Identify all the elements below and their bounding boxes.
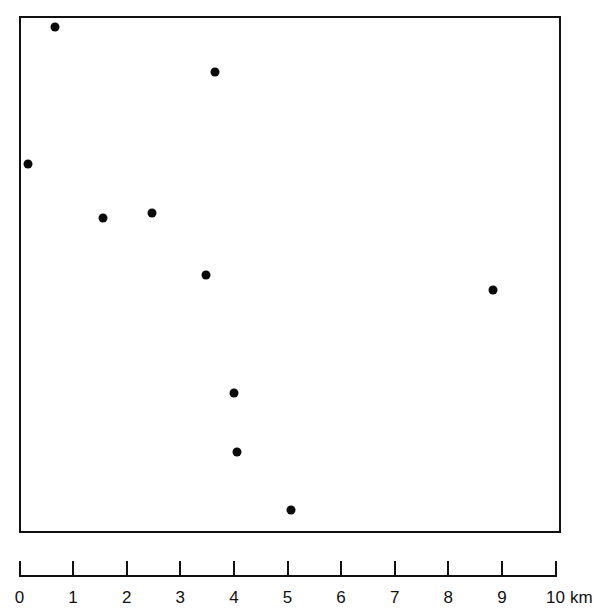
scale-tick	[555, 561, 557, 576]
point-marker	[230, 389, 239, 398]
scale-tick-label: 4	[229, 588, 238, 608]
point-marker	[287, 506, 296, 515]
scale-bar-line	[19, 575, 557, 577]
scale-tick-label: 10	[546, 588, 565, 608]
point-marker	[211, 68, 220, 77]
scale-tick	[447, 561, 449, 576]
scale-tick	[340, 561, 342, 576]
scale-tick	[126, 561, 128, 576]
scale-tick-label: 5	[283, 588, 292, 608]
scale-tick-label: 0	[15, 588, 24, 608]
scale-tick-label: 6	[336, 588, 345, 608]
scale-tick-label: 1	[68, 588, 77, 608]
scale-tick-label: 7	[390, 588, 399, 608]
scale-tick	[287, 561, 289, 576]
study-area-frame	[19, 16, 561, 533]
scale-tick	[233, 561, 235, 576]
scale-tick-label: 8	[444, 588, 453, 608]
point-marker	[233, 448, 242, 457]
scale-tick	[72, 561, 74, 576]
scale-tick	[179, 561, 181, 576]
scale-unit-label: km	[570, 588, 593, 608]
scale-tick-label: 2	[122, 588, 131, 608]
point-marker	[51, 23, 60, 32]
scale-tick-label: 9	[497, 588, 506, 608]
scale-tick	[501, 561, 503, 576]
scale-tick	[394, 561, 396, 576]
point-marker	[99, 214, 108, 223]
point-marker	[202, 271, 211, 280]
point-marker	[489, 286, 498, 295]
scale-tick	[19, 561, 21, 576]
point-marker	[24, 160, 33, 169]
scale-tick-label: 3	[176, 588, 185, 608]
point-marker	[148, 209, 157, 218]
